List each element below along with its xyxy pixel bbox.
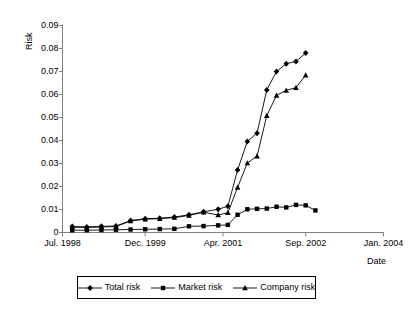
data-point-triangle <box>225 210 231 215</box>
data-point-square <box>303 203 307 207</box>
y-axis-tick-label: 0.07 <box>25 67 59 76</box>
data-point-square <box>274 205 278 209</box>
data-point-square <box>201 224 205 228</box>
x-axis-tick-label: Jan. 2004 <box>344 239 408 248</box>
legend-marker-diamond-icon <box>78 283 102 293</box>
chart-legend: Total riskMarket riskCompany risk <box>77 276 316 299</box>
y-axis-tick-label: 0.06 <box>25 90 59 99</box>
legend-item-total-risk[interactable]: Total risk <box>78 283 141 293</box>
y-axis-tick-label: 0.04 <box>25 136 59 145</box>
data-point-square <box>245 207 249 211</box>
data-point-diamond <box>264 87 270 93</box>
legend-label: Company risk <box>260 283 315 292</box>
data-point-square <box>128 227 132 231</box>
data-point-triangle <box>303 72 309 77</box>
data-point-square <box>294 203 298 207</box>
series-line <box>72 75 305 227</box>
data-point-square <box>265 206 269 210</box>
series-company-risk <box>69 72 308 229</box>
legend-item-company-risk[interactable]: Company risk <box>233 283 315 293</box>
y-axis-tick-label: 0.02 <box>25 182 59 191</box>
x-axis-tick-label: Apr. 2001 <box>183 239 263 248</box>
data-point-square <box>187 224 191 228</box>
data-point-diamond <box>215 206 221 212</box>
data-point-square <box>284 205 288 209</box>
data-point-square <box>172 227 176 231</box>
data-point-square <box>226 223 230 227</box>
data-point-square <box>235 213 239 217</box>
data-point-triangle <box>245 160 251 165</box>
data-point-square <box>216 223 220 227</box>
legend-marker-square-icon <box>151 283 175 293</box>
data-point-diamond <box>87 285 93 291</box>
legend-label: Total risk <box>105 283 141 292</box>
data-point-triangle <box>264 113 270 118</box>
data-point-triangle <box>254 153 260 158</box>
y-axis-tick-label: 0.01 <box>25 205 59 214</box>
series-market-risk <box>70 203 318 233</box>
series-total-risk <box>69 50 308 230</box>
y-axis-tick-label: 0.03 <box>25 159 59 168</box>
data-point-triangle <box>235 185 241 190</box>
legend-label: Market risk <box>178 283 222 292</box>
data-point-square <box>255 207 259 211</box>
x-axis-tick-label: Sep. 2002 <box>266 239 346 248</box>
data-point-square <box>158 227 162 231</box>
data-point-square <box>161 285 165 289</box>
x-axis-tick-label: Dec. 1999 <box>105 239 185 248</box>
legend-marker-triangle-icon <box>233 283 257 293</box>
x-axis-tick-label: Jul. 1998 <box>23 239 103 248</box>
y-axis-tick-label: 0.09 <box>25 21 59 30</box>
y-axis-tick-label: 0 <box>25 228 59 237</box>
data-point-diamond <box>235 167 241 173</box>
data-point-square <box>313 208 317 212</box>
data-point-square <box>143 227 147 231</box>
y-axis-tick-label: 0.08 <box>25 44 59 53</box>
data-point-triangle <box>274 93 280 98</box>
y-axis-tick-label: 0.05 <box>25 113 59 122</box>
legend-item-market-risk[interactable]: Market risk <box>151 283 222 293</box>
series-line <box>72 53 305 227</box>
